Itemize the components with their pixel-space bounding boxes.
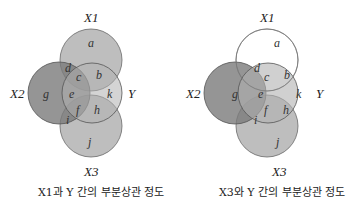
region-c: c [76, 70, 82, 84]
region-b: b [284, 68, 290, 82]
region-b: b [96, 68, 102, 82]
caption-left: X1과 Y 간의 부분상관 정도 [38, 183, 164, 199]
region-a: a [88, 36, 94, 50]
region-d: d [65, 61, 72, 75]
venn-diagrams: X1 X2 Y X3 a d c b g e k f h i j X1 X2 Y… [0, 0, 351, 213]
label-x2: X2 [9, 86, 25, 101]
region-i: i [66, 113, 69, 127]
region-a: a [274, 36, 280, 50]
caption-right: X3와 Y 간의 부분상관 정도 [219, 183, 345, 199]
panel-left: X1 X2 Y X3 a d c b g e k f h i j [9, 10, 137, 179]
label-y: Y [316, 86, 325, 101]
label-x3: X3 [271, 164, 287, 179]
region-c: c [264, 70, 270, 84]
region-i: i [254, 113, 257, 127]
label-x2: X2 [185, 86, 201, 101]
region-e: e [69, 87, 75, 101]
region-d: d [254, 61, 261, 75]
region-k: k [296, 87, 302, 101]
label-x1: X1 [83, 10, 98, 25]
region-k: k [107, 87, 113, 101]
region-e: e [258, 87, 264, 101]
panel-right: X1 X2 Y X3 a d c b g e k f h i j [185, 10, 325, 179]
region-g: g [43, 87, 49, 101]
region-g: g [232, 87, 238, 101]
label-x3: X3 [83, 164, 99, 179]
label-x1: X1 [259, 10, 274, 25]
label-y: Y [128, 86, 137, 101]
region-h: h [94, 103, 100, 117]
region-h: h [283, 103, 289, 117]
